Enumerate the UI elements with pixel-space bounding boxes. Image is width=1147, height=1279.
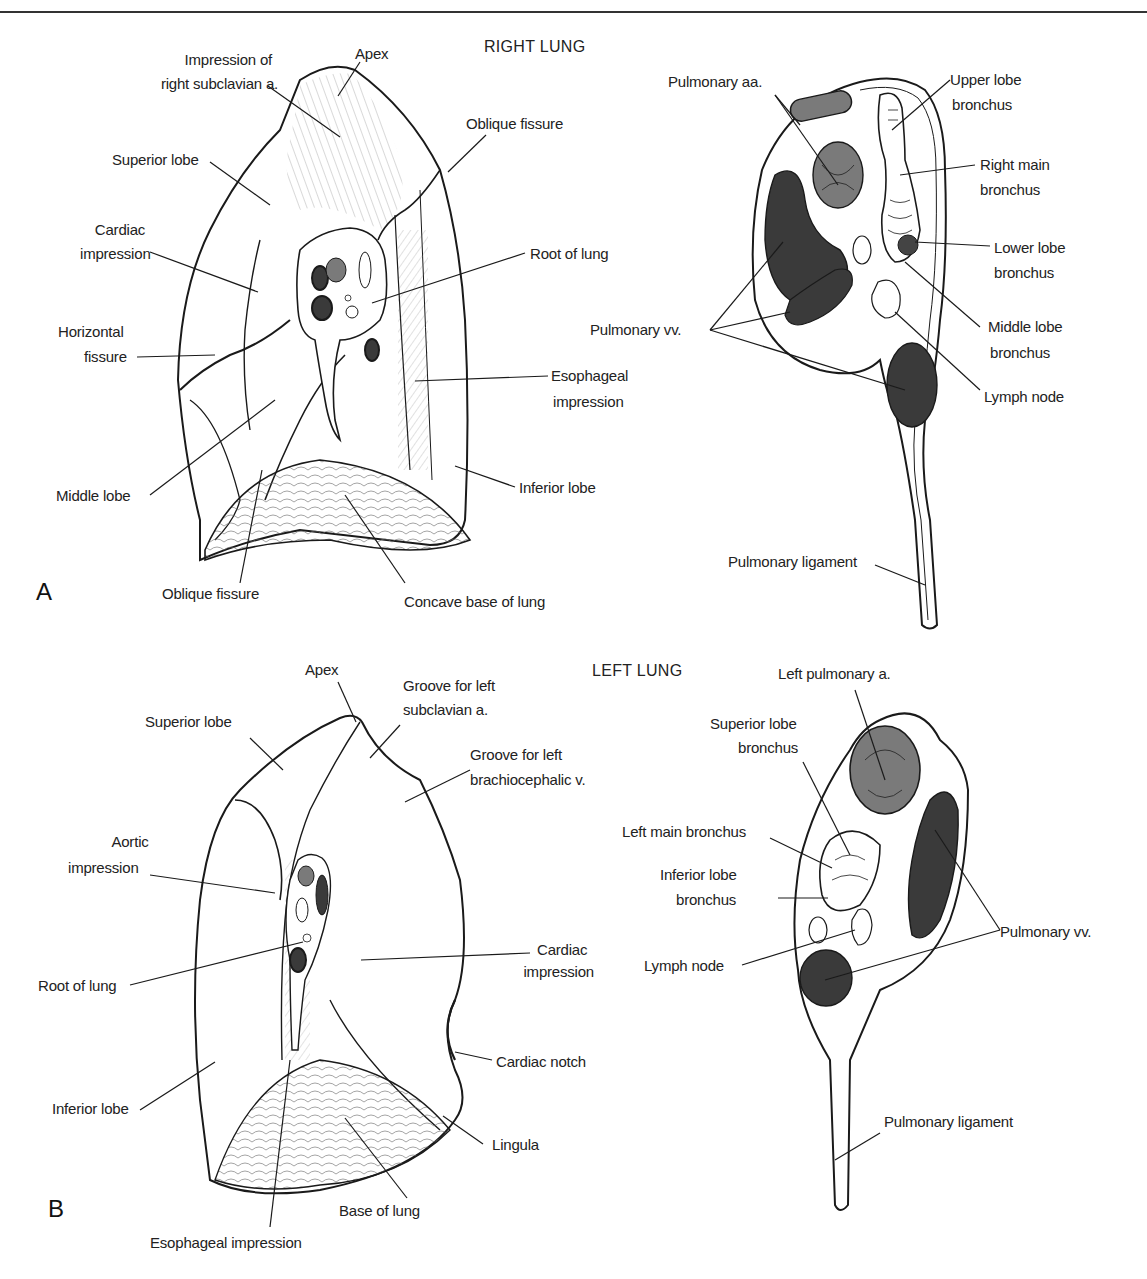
label-cardiac-impression-left-2: impression	[436, 960, 594, 984]
panel-letter-a: A	[36, 578, 52, 606]
label-base-of-lung: Base of lung	[339, 1199, 420, 1223]
label-lingula: Lingula	[492, 1133, 539, 1157]
label-inferior-lobe-bronchus-1: Inferior lobe	[660, 863, 737, 887]
label-superior-lobe-right: Superior lobe	[112, 148, 199, 172]
label-esophageal-impression-right-2: impression	[553, 390, 624, 414]
label-oblique-fissure-bottom: Oblique fissure	[162, 582, 259, 606]
label-cardiac-impression-right-2: impression	[80, 242, 151, 266]
label-root-of-lung-left: Root of lung	[38, 974, 117, 998]
label-groove-subclavian-2: subclavian a.	[403, 698, 488, 722]
label-cardiac-impression-right-1: Cardiac	[80, 218, 160, 242]
label-pulmonary-ligament-left: Pulmonary ligament	[884, 1110, 1013, 1134]
label-inferior-lobe-bronchus-2: bronchus	[676, 888, 736, 912]
label-esophageal-impression-right-1: Esophageal	[551, 364, 628, 388]
label-oblique-fissure-top: Oblique fissure	[466, 112, 563, 136]
label-horizontal-fissure-1: Horizontal	[58, 320, 124, 344]
label-pulmonary-vv-left: Pulmonary vv.	[1000, 920, 1091, 944]
label-left-pulmonary-a: Left pulmonary a.	[778, 662, 891, 686]
label-upper-lobe-bronchus-2: bronchus	[952, 93, 1012, 117]
label-cardiac-impression-left-1: Cardiac	[537, 938, 587, 962]
left-lung-drawing	[195, 716, 464, 1194]
label-right-main-bronchus-1: Right main	[980, 153, 1050, 177]
label-left-main-bronchus: Left main bronchus	[622, 820, 746, 844]
label-concave-base: Concave base of lung	[404, 590, 545, 614]
label-horizontal-fissure-2: fissure	[84, 345, 127, 369]
label-lymph-node-right: Lymph node	[984, 385, 1064, 409]
label-superior-lobe-left: Superior lobe	[145, 710, 232, 734]
label-inferior-lobe-right: Inferior lobe	[519, 476, 596, 500]
left-lung-title: LEFT LUNG	[592, 662, 682, 680]
label-aortic-impression-2: impression	[68, 856, 139, 880]
label-upper-lobe-bronchus-1: Upper lobe	[950, 68, 1021, 92]
label-lymph-node-left: Lymph node	[644, 954, 724, 978]
label-middle-lobe-bronchus-1: Middle lobe	[988, 315, 1063, 339]
label-lower-lobe-bronchus-2: bronchus	[994, 261, 1054, 285]
left-root-cross-section	[794, 713, 968, 1210]
label-esophageal-impression-left: Esophageal impression	[150, 1231, 302, 1255]
label-root-of-lung-right: Root of lung	[530, 242, 609, 266]
label-pulmonary-ligament-right: Pulmonary ligament	[728, 550, 857, 574]
label-inferior-lobe-left: Inferior lobe	[52, 1097, 129, 1121]
label-right-main-bronchus-2: bronchus	[980, 178, 1040, 202]
label-superior-lobe-bronchus-1: Superior lobe	[710, 712, 797, 736]
label-groove-brachio-1: Groove for left	[470, 743, 562, 767]
label-impression-subclavian-2: right subclavian a.	[140, 72, 278, 96]
label-cardiac-notch: Cardiac notch	[496, 1050, 586, 1074]
label-impression-subclavian-1: Impression of	[150, 48, 272, 72]
right-root-cross-section	[753, 78, 946, 628]
label-lower-lobe-bronchus-1: Lower lobe	[994, 236, 1065, 260]
label-apex-right: Apex	[355, 42, 388, 66]
label-groove-brachio-2: brachiocephalic v.	[470, 768, 585, 792]
label-pulmonary-aa: Pulmonary aa.	[668, 70, 762, 94]
label-superior-lobe-bronchus-2: bronchus	[738, 736, 798, 760]
label-pulmonary-vv-right: Pulmonary vv.	[590, 318, 681, 342]
label-aortic-impression-1: Aortic	[90, 830, 170, 854]
right-lung-drawing	[178, 67, 470, 560]
label-groove-subclavian-1: Groove for left	[403, 674, 495, 698]
panel-letter-b: B	[48, 1195, 64, 1223]
label-middle-lobe: Middle lobe	[56, 484, 131, 508]
right-lung-title: RIGHT LUNG	[484, 38, 585, 56]
anatomy-illustration	[0, 0, 1147, 1279]
label-apex-left: Apex	[305, 658, 338, 682]
label-middle-lobe-bronchus-2: bronchus	[990, 341, 1050, 365]
